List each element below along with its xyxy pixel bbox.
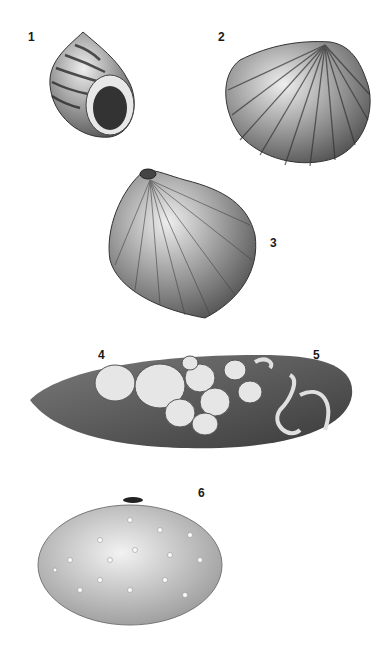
figure-6-urchin xyxy=(38,497,222,625)
figure-label-3: 3 xyxy=(270,236,277,250)
illustration-plate xyxy=(0,0,391,663)
figure-3-bivalve xyxy=(109,169,256,318)
figure-label-1: 1 xyxy=(28,30,35,44)
figure-4-5-rock xyxy=(30,355,352,448)
figure-label-6: 6 xyxy=(198,486,205,500)
figure-label-4: 4 xyxy=(98,348,105,362)
figure-1-snail xyxy=(50,32,134,137)
figure-2-cockle xyxy=(226,42,370,166)
figure-label-5: 5 xyxy=(313,348,320,362)
figure-label-2: 2 xyxy=(218,30,225,44)
